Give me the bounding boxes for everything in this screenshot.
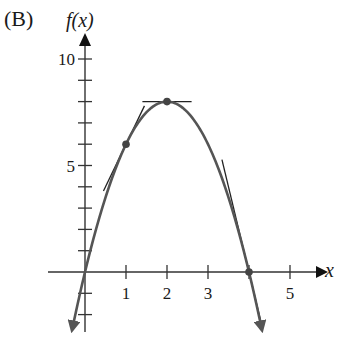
x-axis-label: x [324,259,334,281]
data-point [163,98,171,106]
y-tick-label: 5 [67,157,76,176]
x-tick-label: 3 [204,284,213,303]
x-tick-label: 2 [163,284,172,303]
data-point [245,268,253,276]
y-axis-label: f(x) [66,9,94,32]
data-point [122,140,130,148]
x-tick-label: 1 [122,284,131,303]
panel-label: (B) [4,6,33,31]
x-tick-label: 5 [286,284,295,303]
chart: (B) 1235510 f(x) x [0,0,337,340]
y-axis-arrow-icon [79,33,91,46]
tick-labels: 1235510 [58,50,294,303]
highlighted-points [122,98,253,276]
y-tick-label: 10 [58,50,75,69]
